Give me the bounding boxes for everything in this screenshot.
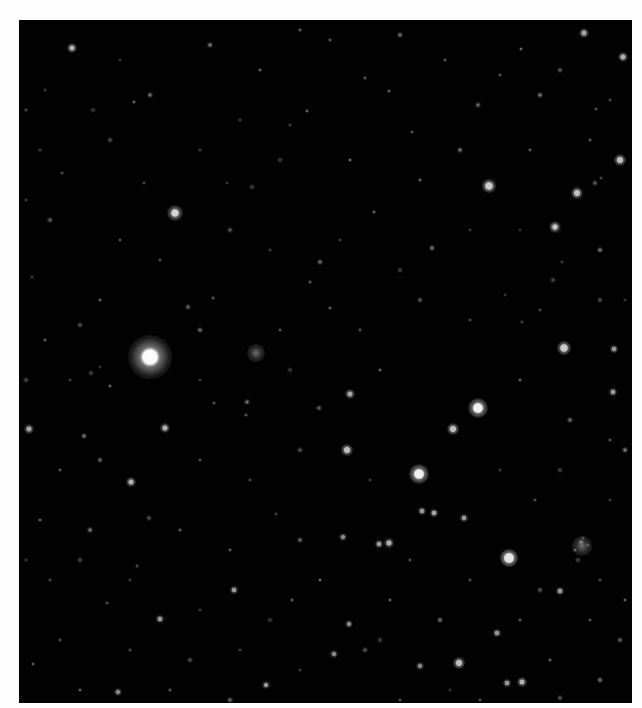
faint-star	[410, 130, 414, 134]
faint-star	[244, 399, 250, 405]
bright-star	[610, 345, 618, 353]
faint-star	[249, 184, 255, 190]
bright-star	[341, 444, 353, 456]
faint-star	[557, 695, 563, 701]
faint-star	[198, 458, 202, 462]
bright-star	[468, 398, 488, 418]
bright-star	[114, 688, 122, 696]
faint-star	[142, 181, 146, 185]
faint-star	[77, 322, 83, 328]
faint-star	[43, 88, 47, 92]
faint-star	[297, 447, 303, 453]
faint-star	[397, 267, 403, 273]
faint-star	[408, 558, 412, 562]
bright-star	[160, 423, 170, 433]
faint-star	[557, 467, 563, 473]
faint-star	[212, 401, 216, 405]
faint-star	[378, 368, 382, 372]
bright-star	[230, 586, 238, 594]
faint-star	[264, 683, 268, 687]
faint-star	[185, 304, 191, 310]
faint-star	[287, 367, 293, 373]
faint-star	[305, 109, 309, 113]
faint-star	[268, 248, 272, 252]
faint-star	[597, 247, 603, 253]
faint-star	[274, 512, 278, 516]
faint-star	[608, 98, 612, 102]
faint-star	[77, 557, 83, 563]
faint-star	[308, 280, 312, 284]
faint-star	[550, 277, 556, 283]
bright-star	[493, 629, 501, 637]
faint-star	[328, 38, 332, 42]
faint-star	[575, 557, 581, 563]
faint-star	[178, 528, 182, 532]
faint-star	[198, 148, 202, 152]
faint-star	[503, 293, 507, 297]
faint-star	[207, 42, 213, 48]
faint-star	[528, 148, 532, 152]
bright-star	[618, 52, 628, 62]
faint-star	[187, 657, 193, 663]
bright-star	[167, 205, 183, 221]
faint-star	[316, 405, 322, 411]
faint-star	[594, 107, 598, 111]
faint-star	[398, 698, 402, 702]
bright-star	[345, 389, 355, 399]
faint-star	[168, 688, 172, 692]
faint-star	[105, 601, 109, 605]
bright-star	[556, 587, 564, 595]
faint-star	[518, 228, 522, 232]
faint-star	[90, 107, 96, 113]
bright-star	[460, 514, 468, 522]
faint-star	[24, 108, 28, 112]
bright-star	[517, 677, 527, 687]
faint-star	[598, 578, 602, 582]
faint-star	[443, 58, 447, 62]
faint-star	[328, 306, 332, 310]
faint-star	[227, 227, 233, 233]
faint-star	[118, 238, 122, 242]
bright-star	[339, 533, 347, 541]
faint-star	[198, 378, 202, 382]
faint-star	[368, 478, 372, 482]
bright-star	[345, 620, 353, 628]
faint-star	[290, 598, 294, 602]
faint-star	[557, 67, 563, 73]
faint-star	[588, 138, 592, 142]
faint-star	[146, 515, 152, 521]
faint-star	[31, 662, 35, 666]
bright-star	[409, 464, 429, 484]
star-cluster	[247, 344, 265, 362]
faint-star	[362, 647, 368, 653]
faint-star	[128, 578, 132, 582]
bright-star	[557, 341, 571, 355]
faint-star	[475, 102, 481, 108]
star-cluster	[572, 536, 592, 556]
faint-star	[38, 148, 42, 152]
faint-star	[597, 297, 603, 303]
faint-star	[608, 498, 612, 502]
faint-star	[98, 365, 102, 369]
bright-star	[128, 335, 172, 379]
bright-star	[375, 540, 383, 548]
faint-star	[622, 447, 628, 453]
faint-star	[24, 198, 28, 202]
faint-star	[498, 73, 502, 77]
bright-star	[384, 538, 394, 548]
faint-star	[198, 608, 202, 612]
faint-star	[88, 370, 94, 376]
faint-star	[258, 68, 262, 72]
bright-star	[609, 388, 617, 396]
faint-star	[248, 478, 252, 482]
bright-star	[571, 187, 583, 199]
faint-star	[132, 100, 136, 104]
faint-star	[363, 76, 367, 80]
bright-star	[482, 179, 496, 193]
faint-star	[597, 677, 603, 683]
faint-star	[418, 178, 422, 182]
faint-star	[288, 123, 292, 127]
faint-star	[147, 92, 153, 98]
bright-star	[614, 154, 626, 166]
faint-star	[548, 658, 552, 662]
